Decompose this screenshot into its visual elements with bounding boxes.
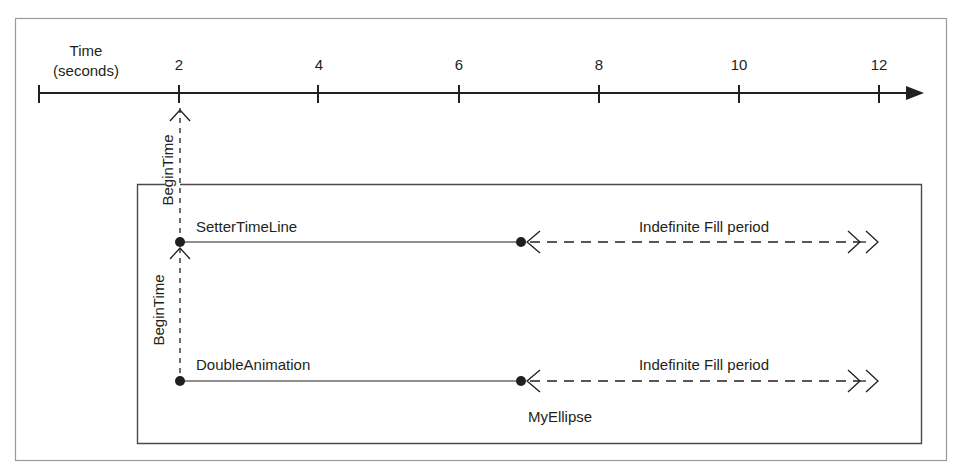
tick-label: 8 bbox=[595, 56, 603, 73]
tick-label: 12 bbox=[871, 56, 888, 73]
fill-period-label: Indefinite Fill period bbox=[639, 218, 769, 235]
timeline-doubleanimation: DoubleAnimation Indefinite Fill period bbox=[175, 356, 878, 392]
fill-period-label: Indefinite Fill period bbox=[639, 356, 769, 373]
axis-title-line2: (seconds) bbox=[53, 62, 119, 79]
end-dot bbox=[516, 376, 526, 386]
timeline-diagram: Time (seconds) 2 4 6 8 10 12 MyEllipse B… bbox=[0, 0, 962, 475]
begin-time-label: BeginTime bbox=[159, 134, 176, 205]
timeline-name: SetterTimeLine bbox=[196, 218, 297, 235]
container-label: MyEllipse bbox=[528, 408, 592, 425]
tick-label: 10 bbox=[731, 56, 748, 73]
outer-frame bbox=[16, 19, 947, 461]
tick-label: 6 bbox=[455, 56, 463, 73]
tick-label: 2 bbox=[175, 56, 183, 73]
axis-title-line1: Time bbox=[70, 42, 103, 59]
fill-end-arrow-icon bbox=[866, 370, 878, 392]
timeline-name: DoubleAnimation bbox=[196, 356, 310, 373]
axis-arrowhead-icon bbox=[906, 86, 924, 100]
begin-time-label: BeginTime bbox=[150, 274, 167, 345]
tick-label: 4 bbox=[315, 56, 323, 73]
fill-end-arrow-icon bbox=[866, 231, 878, 253]
end-dot bbox=[516, 237, 526, 247]
timeline-setter: SetterTimeLine Indefinite Fill period bbox=[175, 218, 878, 253]
time-axis: Time (seconds) 2 4 6 8 10 12 bbox=[39, 42, 924, 103]
